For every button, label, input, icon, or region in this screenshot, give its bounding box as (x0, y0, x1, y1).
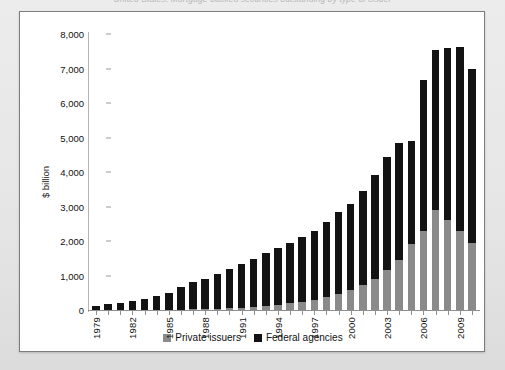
bar-column-1983[interactable] (141, 299, 149, 310)
bar-column-2006[interactable] (420, 80, 428, 310)
bar-segment-federal-1989 (214, 274, 222, 309)
y-axis-tick-labels: 01,0002,0003,0004,0005,0006,0007,0008,00… (42, 34, 84, 310)
bar-segment-federal-1983 (141, 299, 149, 310)
figure-box: $ billion 01,0002,0003,0004,0005,0006,00… (19, 11, 485, 352)
x-axis-label-2000: 2000 (346, 317, 357, 339)
bar-segment-private-1999 (335, 294, 343, 310)
x-axis-tickmark-1989 (217, 311, 218, 315)
bar-column-2000[interactable] (347, 204, 355, 310)
bar-segment-private-2001 (359, 285, 367, 310)
bar-column-2001[interactable] (359, 191, 367, 310)
bar-segment-private-1994 (274, 305, 282, 310)
bar-segment-private-2008 (444, 220, 452, 310)
bar-column-1989[interactable] (214, 274, 222, 310)
bar-column-1991[interactable] (238, 264, 246, 310)
bar-column-1980[interactable] (104, 304, 112, 310)
x-axis-label-1991: 1991 (237, 317, 248, 339)
bar-column-1979[interactable] (92, 306, 100, 310)
bar-column-2002[interactable] (371, 175, 379, 310)
bar-segment-federal-2010 (468, 69, 476, 243)
bar-column-1995[interactable] (286, 243, 294, 310)
x-axis-tickmark-1979 (96, 311, 97, 315)
bar-column-2003[interactable] (383, 157, 391, 310)
bar-segment-private-2007 (432, 210, 440, 310)
x-axis-tickmark-1987 (193, 311, 194, 315)
bar-series-container (90, 34, 478, 310)
bar-column-2009[interactable] (456, 47, 464, 310)
bar-segment-federal-2007 (432, 50, 440, 210)
bar-segment-private-2009 (456, 231, 464, 310)
bar-segment-federal-1990 (226, 269, 234, 308)
bar-column-2007[interactable] (432, 50, 440, 310)
bar-segment-private-1998 (323, 297, 331, 310)
bar-column-1987[interactable] (189, 282, 197, 310)
bar-column-1988[interactable] (201, 279, 209, 310)
bar-column-1984[interactable] (153, 296, 161, 310)
bar-segment-federal-1999 (335, 212, 343, 293)
clipped-figure-caption: United States: Mortgage-backed securitie… (0, 0, 505, 6)
bar-column-1990[interactable] (226, 269, 234, 310)
x-axis-tickmark-2003 (387, 311, 388, 315)
bar-segment-federal-1992 (250, 259, 258, 307)
bar-segment-private-2002 (371, 279, 379, 310)
x-axis-label-1982: 1982 (127, 317, 138, 339)
y-axis-tick-8000: 8,000 (42, 29, 84, 40)
bar-column-1986[interactable] (177, 287, 185, 310)
bar-column-1981[interactable] (117, 303, 125, 310)
y-axis-tick-7000: 7,000 (42, 63, 84, 74)
bar-column-2008[interactable] (444, 48, 452, 310)
bar-column-2004[interactable] (395, 143, 403, 310)
x-axis-tickmark-2002 (375, 311, 376, 315)
bar-segment-private-2005 (408, 244, 416, 310)
chart-plot-area: $ billion 01,0002,0003,0004,0005,0006,00… (20, 12, 484, 351)
x-axis-tickmark-2008 (448, 311, 449, 315)
bar-segment-federal-2003 (383, 157, 391, 270)
x-axis-tickmark-1990 (229, 311, 230, 315)
x-axis-tickmark-2009 (460, 311, 461, 315)
x-axis-tickmark-1999 (339, 311, 340, 315)
bar-segment-private-1989 (214, 309, 222, 310)
y-axis-tick-6000: 6,000 (42, 98, 84, 109)
x-axis-tickmark-1986 (181, 311, 182, 315)
x-axis-tickmark-1980 (108, 311, 109, 315)
bar-segment-private-2000 (347, 290, 355, 310)
bar-column-1992[interactable] (250, 259, 258, 310)
bar-segment-private-2010 (468, 243, 476, 310)
bar-column-1994[interactable] (274, 248, 282, 310)
x-axis-tickmark-1985 (169, 311, 170, 315)
bar-segment-federal-1995 (286, 243, 294, 304)
bar-segment-private-1993 (262, 306, 270, 310)
bar-segment-private-1987 (189, 309, 197, 310)
x-axis-tickmark-1992 (254, 311, 255, 315)
bar-segment-federal-2001 (359, 191, 367, 286)
x-axis-tickmark-2007 (436, 311, 437, 315)
bar-column-1999[interactable] (335, 212, 343, 310)
bar-column-1997[interactable] (311, 231, 319, 310)
bar-column-2005[interactable] (408, 141, 416, 310)
x-axis-tickmark-1983 (145, 311, 146, 315)
y-axis-tick-1000: 1,000 (42, 270, 84, 281)
x-axis-tickmark-1995 (290, 311, 291, 315)
x-axis-tickmark-1991 (242, 311, 243, 315)
bar-segment-federal-1982 (129, 301, 137, 310)
bar-segment-private-1990 (226, 308, 234, 310)
x-axis-label-2009: 2009 (455, 317, 466, 339)
x-axis-label-1985: 1985 (164, 317, 175, 339)
bar-column-2010[interactable] (468, 69, 476, 310)
x-axis-tickmark-2010 (472, 311, 473, 315)
x-axis-tickmark-1993 (266, 311, 267, 315)
bar-column-1998[interactable] (323, 222, 331, 310)
x-axis-label-1994: 1994 (273, 317, 284, 339)
legend-item-federal-agencies[interactable]: Federal agencies (254, 332, 343, 343)
x-axis-tickmark-2006 (423, 311, 424, 315)
bar-column-1982[interactable] (129, 301, 137, 310)
bar-segment-federal-1994 (274, 248, 282, 305)
bar-column-1985[interactable] (165, 293, 173, 310)
bar-segment-private-2004 (395, 260, 403, 310)
bar-segment-private-1992 (250, 307, 258, 310)
bar-column-1993[interactable] (262, 253, 270, 310)
x-axis-tickmark-2001 (363, 311, 364, 315)
bar-column-1996[interactable] (298, 237, 306, 310)
bar-segment-private-1996 (298, 302, 306, 310)
bar-segment-federal-1986 (177, 287, 185, 310)
